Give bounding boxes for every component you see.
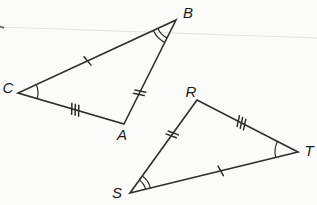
- angle-arc: [36, 85, 38, 99]
- vertex-label-C: C: [3, 79, 14, 96]
- side-RT-tick-marks: [237, 116, 246, 130]
- triangle-RST-outline: [130, 100, 298, 193]
- triangle-ABC: ABC: [3, 4, 193, 143]
- geometry-diagram: ABCRST: [0, 0, 317, 205]
- triangle-ABC-outline: [18, 20, 176, 124]
- angle-arc: [142, 176, 150, 188]
- vertex-label-R: R: [186, 83, 197, 100]
- angle-C-arcs: [36, 85, 38, 99]
- vertex-label-S: S: [112, 184, 122, 201]
- vertex-label-T: T: [304, 142, 315, 159]
- angle-arc: [275, 141, 278, 157]
- tick-mark: [84, 57, 91, 65]
- vertex-label-B: B: [183, 4, 193, 21]
- angle-arc: [139, 180, 145, 189]
- side-CB-tick-marks: [84, 57, 91, 65]
- angle-T-arcs: [275, 141, 278, 157]
- worksheet-page: ABCRST: [0, 0, 317, 205]
- triangle-RST: RST: [112, 83, 315, 201]
- vertex-label-A: A: [116, 126, 127, 143]
